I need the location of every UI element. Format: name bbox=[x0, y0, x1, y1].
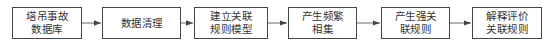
node-label-line: 相集 bbox=[312, 23, 333, 36]
node-evaluate-rules: 解释评价 关联规则 bbox=[472, 7, 542, 39]
node-frequent-itemsets: 产生频繁 相集 bbox=[288, 7, 357, 39]
node-label-line: 数据库 bbox=[31, 23, 63, 36]
node-label-line: 塔吊事故 bbox=[26, 10, 68, 23]
node-label-line: 产生强关 bbox=[395, 10, 437, 23]
node-label-line: 规则模型 bbox=[210, 23, 252, 36]
node-label-line: 联规则 bbox=[400, 23, 432, 36]
node-build-association-model: 建立关联 规则模型 bbox=[194, 7, 268, 39]
node-label-line: 数据清理 bbox=[121, 17, 163, 30]
node-strong-rules: 产生强关 联规则 bbox=[381, 7, 450, 39]
node-label-line: 解释评价 bbox=[486, 10, 528, 23]
node-label-line: 产生频繁 bbox=[302, 10, 344, 23]
node-crane-accident-database: 塔吊事故 数据库 bbox=[12, 7, 82, 39]
node-label-line: 关联规则 bbox=[486, 23, 528, 36]
flow-arrows bbox=[0, 0, 550, 45]
node-label-line: 建立关联 bbox=[210, 10, 252, 23]
node-data-cleaning: 数据清理 bbox=[102, 7, 181, 39]
